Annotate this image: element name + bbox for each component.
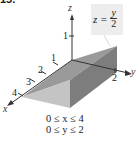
x-tick-label-4: 4 — [12, 87, 17, 98]
z-axis-label: z — [68, 2, 72, 13]
equation-denominator: 2 — [111, 19, 116, 29]
domain-constraints: 0 ≤ x ≤ 4 0 ≤ y ≤ 2 — [46, 113, 84, 135]
x-tick-4 — [18, 93, 23, 96]
x-tick-label-3: 3 — [26, 76, 31, 87]
y-tick-label-2: 2 — [112, 72, 117, 83]
x-axis-label: x — [3, 103, 7, 114]
constraint-y: 0 ≤ y ≤ 2 — [46, 124, 84, 135]
surface-equation: z = y 2 — [93, 8, 117, 29]
equation-fraction: y 2 — [110, 8, 116, 29]
equation-lhs: z = — [93, 13, 107, 25]
z-tick-label-1: 1 — [63, 30, 68, 41]
x-tick-label-2: 2 — [38, 64, 43, 75]
y-axis-label: y — [131, 66, 135, 77]
constraint-x: 0 ≤ x ≤ 4 — [46, 113, 84, 124]
label-pointer — [104, 35, 110, 46]
z-axis-arrow-icon — [70, 14, 74, 20]
x-tick-label-1: 1 — [51, 52, 56, 63]
solid-wedge-figure: 15. z = y 2 z y x 1 2 1 — [0, 0, 139, 146]
x-axis-arrow-icon — [7, 100, 14, 106]
